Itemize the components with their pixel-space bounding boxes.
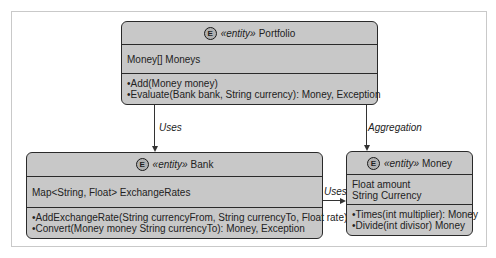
arrowhead-icon bbox=[340, 198, 346, 204]
method: •Times(int multiplier): Money bbox=[352, 209, 467, 220]
arrowhead-icon bbox=[152, 146, 158, 152]
entity-badge-icon: E bbox=[136, 158, 149, 171]
class-money[interactable]: E «entity» Money Float amount String Cur… bbox=[346, 151, 473, 236]
relation-label-uses: Uses bbox=[324, 186, 347, 197]
entity-badge-icon: E bbox=[204, 27, 217, 40]
class-header: E «entity» Portfolio bbox=[122, 22, 377, 45]
method: •Convert(Money money String currencyTo):… bbox=[32, 223, 317, 234]
method: •Evaluate(Bank bank, String currency): M… bbox=[127, 89, 372, 100]
class-header: E «entity» Bank bbox=[27, 153, 322, 177]
relation-label-uses: Uses bbox=[159, 122, 182, 133]
entity-badge-icon: E bbox=[367, 157, 380, 170]
class-name: Money bbox=[422, 158, 452, 169]
relation-label-aggregation: Aggregation bbox=[368, 122, 422, 133]
relation-line-portfolio-bank bbox=[154, 105, 155, 146]
stereotype: «entity» bbox=[384, 158, 419, 169]
relation-line-portfolio-money bbox=[366, 105, 367, 145]
class-portfolio[interactable]: E «entity» Portfolio Money[] Moneys •Add… bbox=[121, 21, 378, 105]
arrowhead-icon bbox=[364, 145, 370, 151]
stereotype: «entity» bbox=[221, 28, 256, 39]
class-name: Portfolio bbox=[259, 28, 296, 39]
class-bank[interactable]: E «entity» Bank Map<String, Float> Excha… bbox=[26, 152, 323, 239]
method: •Add(Money money) bbox=[127, 78, 372, 89]
method: •AddExchangeRate(String currencyFrom, St… bbox=[32, 212, 317, 223]
attribute: Map<String, Float> ExchangeRates bbox=[32, 187, 317, 198]
attributes-section: Map<String, Float> ExchangeRates bbox=[27, 177, 322, 208]
relation-line-bank-money bbox=[323, 200, 340, 201]
stereotype: «entity» bbox=[153, 159, 188, 170]
attribute: String Currency bbox=[352, 190, 467, 201]
method: •Divide(int divisor) Money bbox=[352, 220, 467, 231]
class-header: E «entity» Money bbox=[347, 152, 472, 175]
attributes-section: Money[] Moneys bbox=[122, 45, 377, 74]
class-name: Bank bbox=[191, 159, 214, 170]
attribute: Money[] Moneys bbox=[127, 54, 372, 65]
methods-section: •Add(Money money) •Evaluate(Bank bank, S… bbox=[122, 74, 377, 103]
methods-section: •Times(int multiplier): Money •Divide(in… bbox=[347, 205, 472, 234]
methods-section: •AddExchangeRate(String currencyFrom, St… bbox=[27, 208, 322, 237]
attributes-section: Float amount String Currency bbox=[347, 175, 472, 205]
attribute: Float amount bbox=[352, 179, 467, 190]
